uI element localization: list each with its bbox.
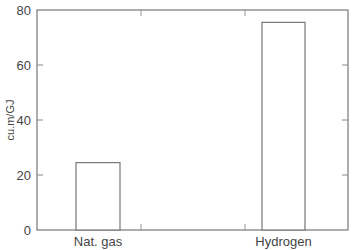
bar-hydrogen bbox=[262, 22, 305, 230]
x-tick-label: Hydrogen bbox=[255, 234, 311, 249]
y-tick-label: 80 bbox=[17, 3, 31, 18]
x-tick-label: Nat. gas bbox=[74, 234, 123, 249]
y-tick-label: 60 bbox=[17, 58, 31, 73]
bar-nat-gas bbox=[76, 163, 120, 230]
bars bbox=[76, 22, 305, 230]
y-tick-label: 40 bbox=[17, 113, 31, 128]
y-tick-label: 0 bbox=[24, 223, 31, 238]
bar-chart: 020406080 Nat. gasHydrogen cu.m/GJ bbox=[0, 0, 363, 250]
y-tick-label: 20 bbox=[17, 168, 31, 183]
y-axis-label: cu.m/GJ bbox=[4, 100, 16, 141]
